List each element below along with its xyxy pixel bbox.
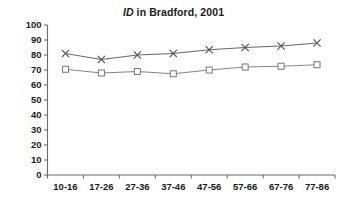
x-tick-label: 77-86 <box>287 182 347 192</box>
y-tick-label: 100 <box>16 20 42 30</box>
chart-figure: ID in Bradford, 2001 0102030405060708090… <box>0 0 347 200</box>
y-tick-label: 60 <box>16 80 42 90</box>
data-point-marker-square <box>98 70 104 76</box>
axes <box>48 25 336 175</box>
data-point-marker-square <box>206 67 212 73</box>
plot-area <box>0 0 347 200</box>
data-point-marker-square <box>278 63 284 69</box>
data-point-marker-square <box>134 69 140 75</box>
y-tick-label: 30 <box>16 125 42 135</box>
series-lower <box>62 62 320 77</box>
data-point-marker-square <box>170 71 176 77</box>
series-upper <box>62 39 321 63</box>
y-tick-label: 20 <box>16 140 42 150</box>
y-tick-label: 80 <box>16 50 42 60</box>
data-point-marker-square <box>242 64 248 70</box>
y-tick-label: 50 <box>16 95 42 105</box>
y-tick-label: 10 <box>16 155 42 165</box>
y-tick-label: 70 <box>16 65 42 75</box>
y-tick-label: 0 <box>16 170 42 180</box>
y-tick-label: 40 <box>16 110 42 120</box>
data-point-marker-square <box>62 66 68 72</box>
data-point-marker-square <box>314 62 320 68</box>
y-tick-label: 90 <box>16 35 42 45</box>
